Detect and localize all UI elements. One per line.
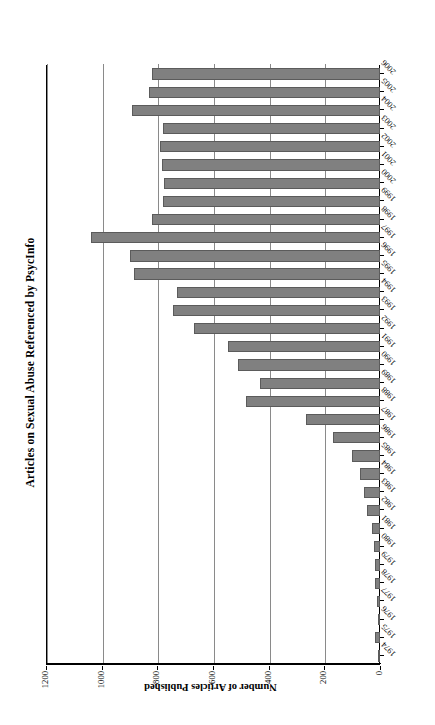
bar [378, 614, 380, 625]
category-tick [380, 455, 384, 456]
category-tick [380, 146, 384, 147]
bar [352, 450, 380, 461]
chart-title: Articles on Sexual Abuse Referenced by P… [24, 0, 36, 725]
bar [260, 378, 380, 389]
value-tick [46, 666, 47, 670]
category-tick [380, 237, 384, 238]
bar [164, 178, 380, 189]
bar [160, 141, 380, 152]
gridline [158, 64, 159, 664]
category-tick [380, 419, 384, 420]
bar [152, 214, 380, 225]
category-tick [380, 164, 384, 165]
rotated-figure: Articles on Sexual Abuse Referenced by P… [0, 0, 435, 725]
bar [162, 159, 380, 170]
bar [177, 287, 380, 298]
value-tick-label: 200 [318, 671, 328, 711]
bar [238, 359, 380, 370]
category-tick [380, 291, 384, 292]
category-tick [380, 619, 384, 620]
category-tick [380, 200, 384, 201]
bar [91, 232, 380, 243]
bar [134, 268, 380, 279]
bar [194, 323, 380, 334]
bar [372, 523, 380, 534]
category-tick [380, 91, 384, 92]
category-tick [380, 528, 384, 529]
bar [228, 341, 380, 352]
category-tick [380, 546, 384, 547]
gridline [103, 64, 104, 664]
value-tick [269, 666, 270, 670]
category-tick [380, 273, 384, 274]
category-tick [380, 219, 384, 220]
bar [246, 396, 380, 407]
value-tick-label: 0 [374, 671, 384, 711]
category-tick [380, 73, 384, 74]
plot-frame-line [47, 663, 381, 664]
category-tick [380, 182, 384, 183]
value-tick-label: 1000 [96, 671, 106, 711]
category-tick [380, 637, 384, 638]
bar [163, 123, 380, 134]
bar [375, 632, 380, 643]
bar [374, 541, 380, 552]
value-tick [157, 666, 158, 670]
gridline [47, 64, 48, 664]
category-tick [380, 473, 384, 474]
category-tick [380, 491, 384, 492]
value-tick [102, 666, 103, 670]
bar [306, 414, 380, 425]
category-tick [380, 382, 384, 383]
category-tick [380, 400, 384, 401]
bar [163, 196, 380, 207]
value-tick-label: 1200 [40, 671, 50, 711]
value-tick [213, 666, 214, 670]
category-tick [380, 346, 384, 347]
category-tick [380, 437, 384, 438]
value-axis-title: Number of Articles Published [141, 682, 281, 693]
bar [333, 432, 380, 443]
bar [375, 578, 380, 589]
category-tick [380, 509, 384, 510]
bar [378, 650, 380, 661]
chart-page: Articles on Sexual Abuse Referenced by P… [0, 0, 435, 725]
bar [173, 305, 380, 316]
category-tick [380, 582, 384, 583]
value-tick [380, 666, 381, 670]
bar [375, 559, 380, 570]
category-tick [380, 564, 384, 565]
category-tick [380, 364, 384, 365]
bar [360, 468, 380, 479]
category-tick [380, 600, 384, 601]
bar [149, 87, 380, 98]
gridline [214, 64, 215, 664]
bar [130, 250, 381, 261]
category-tick [380, 309, 384, 310]
category-tick [380, 128, 384, 129]
category-tick [380, 328, 384, 329]
category-tick [380, 255, 384, 256]
bar [367, 505, 380, 516]
bar [377, 596, 380, 607]
bar [132, 105, 380, 116]
value-tick [324, 666, 325, 670]
bar [152, 68, 380, 79]
category-tick [380, 109, 384, 110]
bar [364, 487, 380, 498]
category-tick [380, 655, 384, 656]
